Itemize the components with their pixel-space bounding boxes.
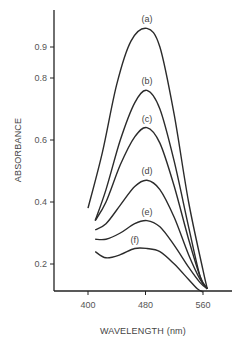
curve-f xyxy=(95,248,203,292)
curves xyxy=(88,28,207,292)
y-tick-label: 0.4 xyxy=(34,197,47,207)
curve-a xyxy=(88,28,207,289)
curve-label: (b) xyxy=(141,76,152,86)
curve-label: (e) xyxy=(141,207,152,217)
curve-label: (f) xyxy=(130,235,139,245)
curve-label: (a) xyxy=(141,14,152,24)
x-ticks: 400480560 xyxy=(80,291,210,310)
y-tick-label: 0.6 xyxy=(34,135,47,145)
y-ticks: 0.20.40.60.80.9 xyxy=(34,42,54,269)
y-tick-label: 0.9 xyxy=(34,42,47,52)
y-tick-label: 0.8 xyxy=(34,73,47,83)
y-axis-title: ABSORBANCE xyxy=(13,118,23,183)
curve-e xyxy=(95,221,207,289)
x-tick-label: 400 xyxy=(80,300,95,310)
x-tick-label: 480 xyxy=(138,300,153,310)
x-axis-title: WAVELENGTH (nm) xyxy=(100,326,186,336)
curve-label: (c) xyxy=(142,114,153,124)
absorbance-chart: 0.20.40.60.80.9 400480560 (a)(b)(c)(d)(e… xyxy=(0,0,246,344)
curve-label: (d) xyxy=(141,166,152,176)
y-tick-label: 0.2 xyxy=(34,259,47,269)
x-tick-label: 560 xyxy=(195,300,210,310)
